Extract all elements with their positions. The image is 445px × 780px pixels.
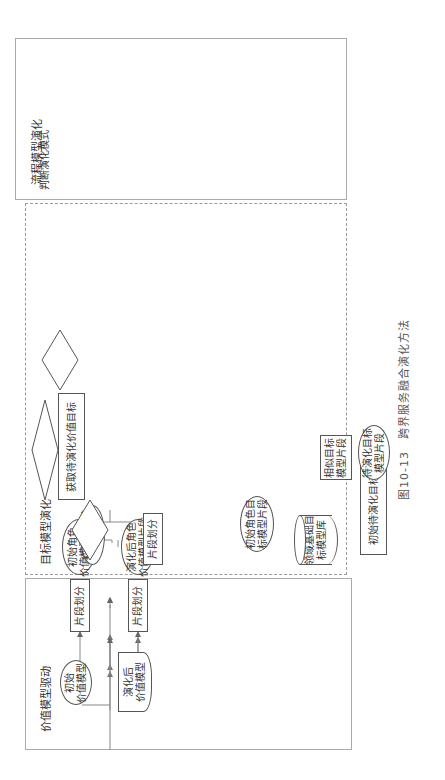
domain-target-repo: 领域基础目 标模型库: [300, 515, 332, 565]
figure-caption: 图10-13 跨界服务融合演化方法: [395, 319, 411, 500]
initial-role-target-fragment: 初始角色目 标模型片段: [240, 496, 274, 552]
value-split-2: 片段划分: [128, 579, 148, 632]
get-value-target: 获取待演化价值目标: [58, 393, 85, 500]
target-split: 片段划分: [143, 513, 163, 565]
similar-target-fragment: 相似目标 模型片段: [320, 435, 352, 480]
evolved-value-model: 演化后 价值模型: [118, 652, 152, 712]
value-split-1: 片段划分: [70, 579, 90, 632]
judge-evolution-mode: 判断演化模式: [33, 130, 57, 190]
pending-target-fragment: 待演化目标 模型片段: [358, 425, 390, 480]
diagram-canvas: 价值模型驱动 目标模型演化 流程模型演化: [0, 0, 445, 780]
initial-value-model: 初始 价值模型: [60, 660, 92, 705]
initial-target-model: 初始目标模型: [80, 505, 105, 565]
